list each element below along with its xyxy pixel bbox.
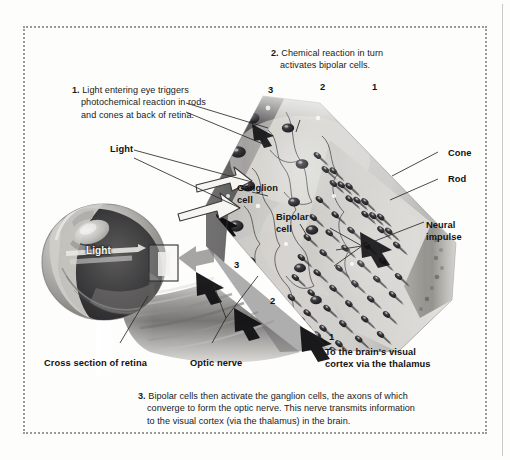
step-2-line-2: activates bipolar cells. — [280, 60, 370, 70]
step-marker-lower-3: 3 — [234, 259, 239, 270]
light-label: Light — [110, 144, 133, 156]
step-3-line-3: to the visual cortex (via the thalamus) … — [147, 416, 350, 426]
step-1-callout: 1. Light entering eye triggers photochem… — [72, 84, 233, 121]
step-2-callout: 2. Chemical reaction in turn activates b… — [271, 47, 446, 72]
light-in-eye-label: Light — [86, 245, 111, 257]
to-brain-label-line-2: cortex via the thalamus — [325, 359, 431, 369]
right-edge-rule — [502, 4, 503, 456]
to-brain-label: To the brain's visual cortex via the tha… — [325, 347, 455, 370]
step-2-line-1: Chemical reaction in turn — [281, 48, 383, 58]
bipolar-cell-label: Bipolar cell — [276, 212, 332, 235]
step-marker-top-3: 3 — [268, 84, 273, 95]
step-marker-lower-2: 2 — [270, 295, 275, 306]
neural-impulse-label: Neural impulse — [426, 220, 482, 243]
step-marker-top-1: 1 — [372, 81, 377, 92]
step-1-line-1: Light entering eye triggers — [82, 85, 189, 95]
ganglion-cell-label-line-1: Ganglion — [237, 183, 278, 193]
rod-label: Rod — [448, 174, 466, 186]
optic-nerve-label: Optic nerve — [190, 358, 242, 370]
step-2-number: 2. — [271, 48, 279, 58]
retina-diagram-figure: 1. Light entering eye triggers photochem… — [0, 0, 510, 460]
neural-impulse-label-line-2: impulse — [426, 232, 462, 242]
step-marker-lower-1: 1 — [329, 331, 334, 342]
step-3-line-1: Bipolar cells then activate the ganglion… — [148, 391, 408, 401]
step-3-callout: 3. Bipolar cells then activate the gangl… — [138, 390, 457, 427]
cross-section-label: Cross section of retina — [44, 358, 147, 370]
cone-label: Cone — [448, 148, 472, 160]
ganglion-cell-label: Ganglion cell — [237, 183, 297, 206]
step-1-number: 1. — [72, 85, 80, 95]
step-1-line-3: and cones at back of retina. — [81, 110, 194, 120]
step-marker-top-2: 2 — [320, 81, 325, 92]
bipolar-cell-label-line-2: cell — [276, 224, 292, 234]
step-3-number: 3. — [138, 391, 146, 401]
neural-impulse-label-line-1: Neural — [426, 220, 456, 230]
bipolar-cell-label-line-1: Bipolar — [276, 212, 309, 222]
step-3-line-2: converge to form the optic nerve. This n… — [147, 403, 415, 413]
step-1-line-2: photochemical reaction in rods — [81, 97, 206, 107]
ganglion-cell-label-line-2: cell — [237, 195, 253, 205]
to-brain-label-line-1: To the brain's visual — [325, 347, 416, 357]
